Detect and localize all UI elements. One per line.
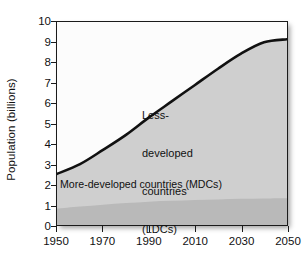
mdc-annotation: More-developed countries (MDCs): [60, 178, 222, 191]
y-tick-label: 2: [22, 178, 51, 192]
y-axis-title: Population (billions): [0, 0, 22, 259]
x-axis-tick-labels: 1950 1970 1990 2010 2030 2050: [0, 233, 304, 249]
ldc-annotation-line: developed: [142, 147, 193, 160]
y-tick-label: 10: [22, 14, 51, 28]
y-tick-label: 7: [22, 76, 51, 90]
x-tick-mark: [102, 226, 103, 232]
y-tick-label: 9: [22, 35, 51, 49]
x-tick-mark: [242, 226, 243, 232]
y-tick-label: 1: [22, 199, 51, 213]
x-tick-label: 2010: [173, 233, 217, 249]
y-tick-label: 6: [22, 96, 51, 110]
x-tick-label: 2030: [220, 233, 264, 249]
x-tick-label: 1990: [127, 233, 171, 249]
y-tick-label: 8: [22, 55, 51, 69]
y-axis-tick-labels: 10 9 8 7 6 5 4 3 2 1 0: [22, 14, 51, 227]
x-tick-mark: [149, 226, 150, 232]
x-tick-label: 1970: [80, 233, 124, 249]
y-tick-label: 5: [22, 117, 51, 131]
y-tick-label: 0: [22, 219, 51, 233]
ldc-annotation-line: Less-: [142, 109, 193, 122]
x-tick-mark: [288, 226, 289, 232]
y-tick-label: 3: [22, 158, 51, 172]
population-growth-chart: Population (billions) 10 9 8 7 6 5 4 3 2…: [0, 0, 304, 259]
y-tick-label: 4: [22, 137, 51, 151]
x-tick-label: 1950: [34, 233, 78, 249]
x-tick-mark: [195, 226, 196, 232]
x-tick-label: 2050: [266, 233, 304, 249]
x-tick-mark: [56, 226, 57, 232]
